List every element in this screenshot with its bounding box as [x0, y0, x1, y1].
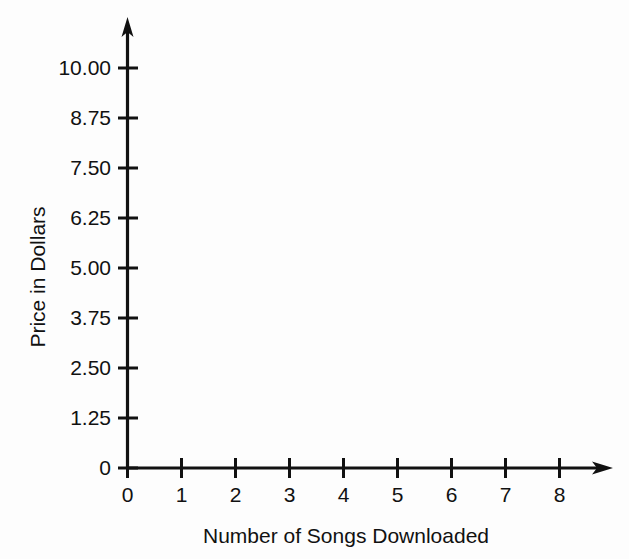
y-tick-label-6: 7.50: [70, 156, 111, 179]
x-tick-label-5: 5: [392, 483, 404, 506]
x-tick-label-2: 2: [230, 483, 242, 506]
y-tick-label-3: 3.75: [70, 306, 111, 329]
y-tick-label-0: 0: [99, 456, 111, 479]
x-tick-label-6: 6: [446, 483, 458, 506]
x-tick-label-0: 0: [122, 483, 134, 506]
y-axis-title: Price in Dollars: [26, 206, 49, 347]
x-tick-label-3: 3: [284, 483, 296, 506]
plot-area: [128, 22, 612, 468]
y-axis-tick-labels: 0 1.25 2.50 3.75 5.00 6.25 7.50 8.75 10.…: [58, 56, 111, 479]
x-tick-label-7: 7: [500, 483, 512, 506]
y-tick-label-5: 6.25: [70, 206, 111, 229]
y-tick-label-8: 10.00: [58, 56, 111, 79]
y-tick-label-1: 1.25: [70, 406, 111, 429]
x-tick-label-8: 8: [554, 483, 566, 506]
x-axis-title: Number of Songs Downloaded: [203, 524, 489, 547]
y-tick-label-4: 5.00: [70, 256, 111, 279]
y-tick-label-7: 8.75: [70, 106, 111, 129]
x-tick-label-1: 1: [176, 483, 188, 506]
x-tick-label-4: 4: [338, 483, 350, 506]
x-axis-tick-labels: 0 1 2 3 4 5 6 7 8: [122, 483, 566, 506]
chart-page: 0 1.25 2.50 3.75 5.00 6.25 7.50 8.75 10.…: [0, 0, 629, 559]
coordinate-plane-chart: 0 1.25 2.50 3.75 5.00 6.25 7.50 8.75 10.…: [0, 0, 629, 559]
y-tick-label-2: 2.50: [70, 356, 111, 379]
